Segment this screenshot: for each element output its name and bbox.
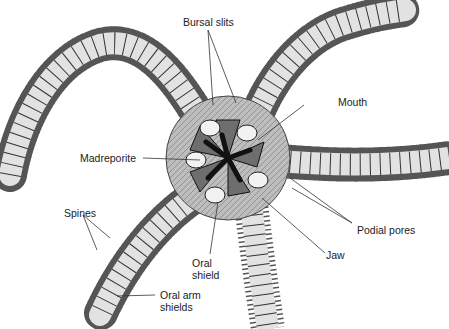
brittle-star-illustration: [0, 0, 449, 329]
label-mouth: Mouth: [338, 96, 367, 108]
central-disk: [166, 96, 290, 220]
label-podial-pores: Podial pores: [357, 224, 415, 236]
arm-upper-right: [255, 10, 405, 120]
label-madreporite: Madreporite: [80, 152, 136, 164]
arm-right: [270, 158, 449, 165]
label-spines: Spines: [64, 207, 96, 219]
label-oral-shield: Oral shield: [192, 257, 219, 281]
label-oral-arm-shields: Oral arm shields: [160, 289, 201, 313]
label-bursal-slits: Bursal slits: [183, 16, 234, 28]
label-jaw: Jaw: [326, 249, 345, 261]
